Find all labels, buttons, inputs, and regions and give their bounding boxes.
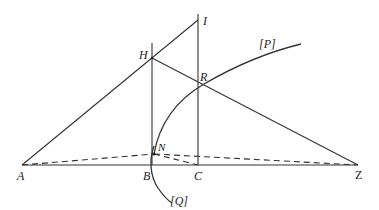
label-R: R bbox=[199, 70, 208, 84]
geometric-diagram: A B C Z H I R N [P] [Q] bbox=[0, 0, 379, 210]
dashed-line-AN bbox=[22, 154, 154, 165]
line-AI bbox=[22, 20, 198, 165]
label-B: B bbox=[143, 169, 151, 183]
label-A: A bbox=[16, 169, 25, 183]
label-curve-P: [P] bbox=[259, 37, 276, 51]
label-I: I bbox=[202, 14, 208, 28]
line-HZ bbox=[152, 58, 358, 165]
label-Z: Z bbox=[355, 168, 362, 182]
label-curve-Q: [Q] bbox=[170, 194, 188, 208]
point-H-marker bbox=[151, 57, 153, 59]
label-N: N bbox=[157, 141, 166, 153]
curve-P bbox=[154, 44, 301, 154]
label-C: C bbox=[194, 169, 203, 183]
dashed-line-NZ bbox=[154, 154, 358, 165]
point-N-marker bbox=[152, 152, 155, 155]
label-H: H bbox=[138, 48, 149, 62]
